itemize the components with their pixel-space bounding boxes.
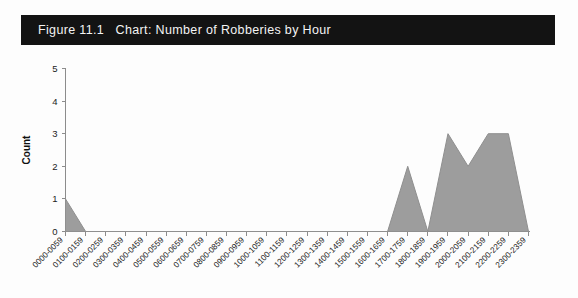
y-axis-tick-label: 2: [52, 161, 57, 172]
x-axis: 0000-00590100-01590200-02590300-03590400…: [31, 232, 530, 270]
series-area-robberies-by-hour: [66, 134, 529, 232]
y-axis-title: Count: [21, 135, 32, 165]
y-axis-tick-label: 4: [52, 96, 57, 107]
chart-svg: 012345 0000-00590100-01590200-02590300-0…: [0, 0, 578, 298]
y-axis-title-label: Count: [21, 135, 32, 165]
y-axis-tick-label: 5: [52, 63, 57, 74]
y-axis: 012345: [52, 63, 65, 237]
figure-container: Figure 11.1 Chart: Number of Robberies b…: [0, 0, 578, 298]
y-axis-tick-label: 1: [52, 193, 57, 204]
data-series-robberies: [66, 134, 529, 232]
chart-plot-area: 012345 0000-00590100-01590200-02590300-0…: [0, 0, 578, 298]
y-axis-tick-label: 3: [52, 128, 57, 139]
y-axis-tick-label: 0: [52, 226, 57, 237]
